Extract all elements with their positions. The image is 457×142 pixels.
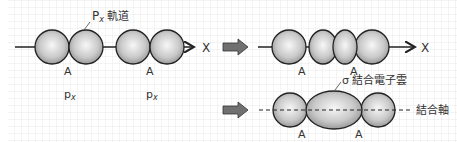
sigma-cloud-label: σ 結合電子雲 bbox=[342, 73, 407, 87]
orbital-label: Px 軌道 bbox=[92, 9, 129, 24]
atom-label-a: A bbox=[355, 128, 363, 141]
atom-label-a: A bbox=[298, 128, 306, 141]
atom-label-a: A bbox=[64, 65, 72, 78]
x-axis-label: X bbox=[202, 41, 210, 55]
atom-label-a: A bbox=[146, 65, 154, 78]
x-axis-label: X bbox=[421, 41, 429, 55]
bond-axis-label: 結合軸 bbox=[416, 103, 449, 117]
sigma-bond-diagram: Px 軌道 X A A px px X A A σ 結合電子雲 結合軸 A A bbox=[0, 0, 457, 142]
atom-label-a: A bbox=[298, 65, 306, 78]
